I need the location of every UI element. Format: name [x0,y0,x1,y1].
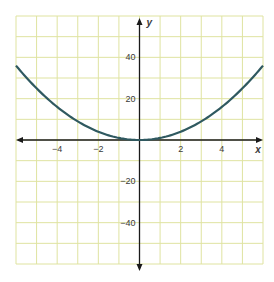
x-tick-label: 4 [219,144,224,154]
tick-labels: −4−2244020−20−40xy [52,17,261,228]
y-axis-up-arrow-icon [137,18,143,25]
x-axis-label: x [254,144,261,155]
y-tick-label: 40 [125,52,135,62]
y-tick-label: −20 [120,176,135,186]
x-axis-left-arrow-icon [16,137,23,143]
y-axis-label: y [146,17,153,28]
y-axis-down-arrow-icon [137,264,143,271]
x-axis-right-arrow-icon [256,137,263,143]
x-tick-label: −4 [52,144,62,154]
y-tick-label: −40 [120,218,135,228]
parabola-chart: −4−2244020−20−40xy [0,0,274,282]
x-tick-label: 2 [178,144,183,154]
y-tick-label: 20 [125,94,135,104]
x-tick-label: −2 [93,144,103,154]
